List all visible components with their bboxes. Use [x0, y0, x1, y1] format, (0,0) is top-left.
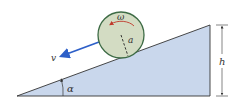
velocity-arrow-icon	[64, 42, 99, 55]
omega-label: ω	[117, 12, 125, 22]
angle-label: α	[67, 83, 74, 94]
velocity-label: v	[51, 53, 56, 63]
incline-diagram: h α v a ω	[0, 0, 238, 102]
radius-label: a	[128, 35, 133, 45]
height-label: h	[219, 56, 225, 67]
